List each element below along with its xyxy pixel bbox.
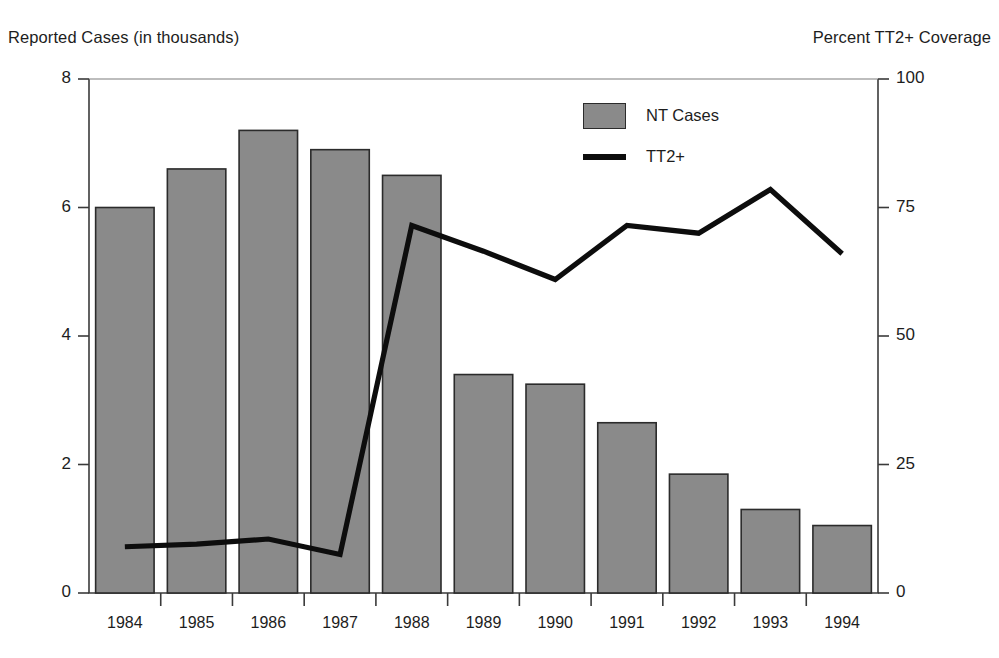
bar-1991 bbox=[598, 423, 656, 593]
bar-1993 bbox=[741, 509, 799, 593]
right-tick-75: 75 bbox=[896, 197, 915, 217]
x-tick-1986: 1986 bbox=[233, 614, 303, 632]
bar-1988 bbox=[383, 175, 441, 593]
right-tick-25: 25 bbox=[896, 454, 915, 474]
left-tick-2: 2 bbox=[62, 454, 71, 474]
x-tick-1988: 1988 bbox=[377, 614, 447, 632]
x-tick-1987: 1987 bbox=[305, 614, 375, 632]
x-tick-1994: 1994 bbox=[807, 614, 877, 632]
left-axis-title: Reported Cases (in thousands) bbox=[8, 28, 239, 47]
legend-swatch-tt2 bbox=[583, 154, 626, 160]
legend-label-nt-cases: NT Cases bbox=[646, 106, 719, 125]
legend-swatch-nt-cases bbox=[583, 103, 626, 129]
chart-figure: Reported Cases (in thousands) Percent TT… bbox=[0, 0, 999, 658]
x-tick-1990: 1990 bbox=[520, 614, 590, 632]
bar-1990 bbox=[526, 384, 584, 593]
x-tick-1992: 1992 bbox=[664, 614, 734, 632]
right-tick-50: 50 bbox=[896, 325, 915, 345]
left-tick-4: 4 bbox=[62, 325, 71, 345]
x-tick-1993: 1993 bbox=[735, 614, 805, 632]
left-tick-0: 0 bbox=[62, 582, 71, 602]
x-tick-1984: 1984 bbox=[90, 614, 160, 632]
left-tick-8: 8 bbox=[62, 68, 71, 88]
right-tick-0: 0 bbox=[896, 582, 905, 602]
right-tick-100: 100 bbox=[896, 68, 924, 88]
bar-1987 bbox=[311, 150, 369, 593]
x-tick-1985: 1985 bbox=[162, 614, 232, 632]
bar-1984 bbox=[96, 208, 154, 594]
bar-1989 bbox=[454, 375, 512, 593]
x-tick-1989: 1989 bbox=[449, 614, 519, 632]
bar-1986 bbox=[239, 130, 297, 593]
x-tick-1991: 1991 bbox=[592, 614, 662, 632]
bar-1994 bbox=[813, 526, 871, 593]
bar-1985 bbox=[167, 169, 225, 593]
bar-1992 bbox=[669, 474, 727, 593]
legend-label-tt2: TT2+ bbox=[646, 147, 685, 166]
plot-area bbox=[0, 0, 999, 658]
left-tick-6: 6 bbox=[62, 197, 71, 217]
right-axis-title: Percent TT2+ Coverage bbox=[813, 28, 991, 47]
